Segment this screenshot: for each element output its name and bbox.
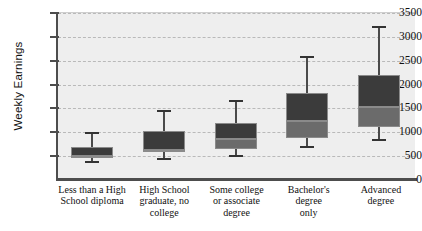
box-upper-quartile: [215, 123, 257, 140]
box-upper-quartile: [286, 93, 328, 121]
box-upper-quartile: [71, 147, 113, 157]
box-plot: [286, 13, 328, 180]
x-axis-category-label-line: Bachelor's degree: [274, 184, 344, 207]
upper-whisker: [235, 100, 237, 122]
y-axis-tick: [50, 155, 59, 157]
box-lower-quartile: [286, 121, 328, 138]
upper-whisker-cap: [300, 56, 314, 58]
x-axis-category-label-line: degree: [346, 195, 416, 206]
x-axis-category-label-line: School diploma: [57, 195, 127, 206]
x-axis-category-label-line: Some college: [201, 184, 271, 195]
y-axis-tick: [50, 12, 59, 14]
x-axis-category-label: Bachelor's degreeonly: [273, 184, 345, 218]
upper-whisker-cap: [229, 100, 243, 102]
lower-whisker-cap: [372, 139, 386, 141]
lower-whisker-cap: [157, 158, 171, 160]
lower-whisker-cap: [229, 155, 243, 157]
x-axis-category-label-line: Advanced: [346, 184, 416, 195]
box-lower-quartile: [143, 150, 185, 152]
x-axis-category-label-line: Less than a High: [57, 184, 127, 195]
upper-whisker: [378, 26, 380, 75]
box-plot: [71, 13, 113, 180]
box-upper-quartile: [143, 131, 185, 151]
x-axis-category-label: Some collegeor associatedegree: [200, 184, 272, 218]
lower-whisker-cap: [300, 146, 314, 148]
x-axis-category-label-line: graduate, no: [129, 195, 199, 206]
y-axis-tick: [50, 131, 59, 133]
box-plot: [358, 13, 400, 180]
box-plot: [143, 13, 185, 180]
upper-whisker-cap: [372, 26, 386, 28]
box-lower-quartile: [215, 139, 257, 149]
lower-whisker-cap: [85, 161, 99, 163]
box-lower-quartile: [71, 156, 113, 158]
y-axis-tick: [50, 36, 59, 38]
y-axis-tick: [50, 84, 59, 86]
upper-whisker: [91, 132, 93, 147]
y-axis-tick: [50, 60, 59, 62]
x-axis-category-label-line: or associate: [201, 195, 271, 206]
x-axis-category-label: Less than a HighSchool diploma: [56, 184, 128, 218]
x-axis-category-label-line: High School: [129, 184, 199, 195]
y-axis-tick: [50, 107, 59, 109]
x-axis-category-label: Advanceddegree: [345, 184, 417, 218]
box-plot: [215, 13, 257, 180]
x-axis-labels: Less than a HighSchool diplomaHigh Schoo…: [56, 184, 417, 218]
upper-whisker: [163, 110, 165, 131]
upper-whisker-cap: [157, 110, 171, 112]
x-axis-category-label: High Schoolgraduate, nocollege: [128, 184, 200, 218]
box-plot-chart: Weekly Earnings 050010001500200025003000…: [0, 0, 422, 231]
x-axis-category-label-line: degree: [201, 207, 271, 218]
upper-whisker-cap: [85, 132, 99, 134]
box-upper-quartile: [358, 75, 400, 106]
box-lower-quartile: [358, 107, 400, 128]
upper-whisker: [306, 56, 308, 93]
y-axis-title: Weekly Earnings: [12, 16, 24, 156]
x-axis-category-label-line: college: [129, 207, 199, 218]
x-axis-category-label-line: only: [274, 207, 344, 218]
